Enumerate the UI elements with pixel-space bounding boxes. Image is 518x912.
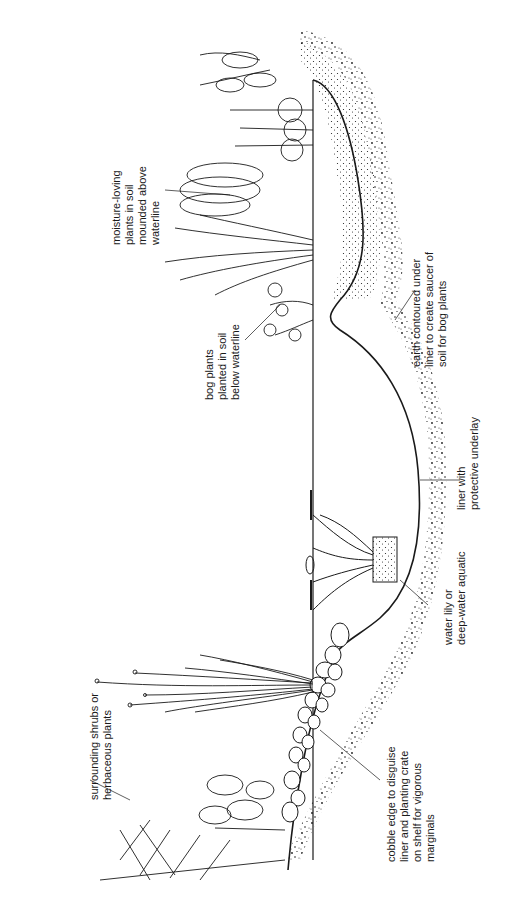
label-line: liner with [455,417,468,510]
label-line: herbaceous plants [101,693,114,800]
marginal-reeds [95,655,313,712]
label-line: deep-water aquatic [455,551,468,645]
label-liner: liner with protective underlay [455,417,481,510]
label-line: planted in soil [216,324,229,400]
label-earth-contoured: earth contoured under liner to create sa… [410,252,449,367]
label-line: liner to create saucer of [423,252,436,367]
label-line: plants in soil [123,166,136,245]
label-cobble-edge: cobble edge to disguise liner and planti… [385,746,437,862]
label-water-lily: water lily or deep-water aquatic [442,551,468,645]
label-line: liner and planting crate [398,746,411,862]
label-line: on shelf for vigorous [411,746,424,862]
cobble-edge [282,623,349,822]
label-line: earth contoured under [410,252,423,367]
moisture-loving-plants [165,52,313,295]
label-line: soil for bog plants [436,252,449,367]
label-line: bog plants [203,324,216,400]
label-line: moisture-loving [110,166,123,245]
label-bog-plants: bog plants planted in soil below waterli… [203,324,242,400]
label-line: surrounding shrubs or [88,693,101,800]
bog-plants [264,283,313,341]
pond-cross-section-drawing [0,0,518,912]
label-line: waterline [149,166,162,245]
label-line: mounded above [136,166,149,245]
label-line: protective underlay [468,417,481,510]
label-line: marginals [424,746,437,862]
water-lily [306,490,397,610]
label-line: cobble edge to disguise [385,746,398,862]
label-moisture-loving-plants: moisture-loving plants in soil mounded a… [110,166,162,245]
label-line: water lily or [442,551,455,645]
leader-lines [90,190,460,800]
label-surrounding-shrubs: surrounding shrubs or herbaceous plants [88,693,114,800]
surrounding-shrubs [100,775,285,880]
label-line: below waterline [229,324,242,400]
